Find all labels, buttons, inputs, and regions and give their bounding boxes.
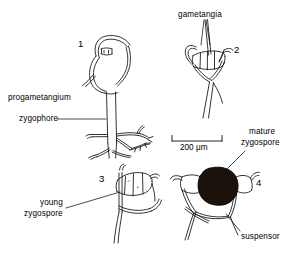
male-symbol: ♂ <box>127 178 131 184</box>
panel-1-drawing <box>83 35 154 159</box>
label-young-zygospore-line1: young <box>40 198 63 209</box>
leader-young-zygospore <box>66 192 120 208</box>
female-symbol: ♀ <box>136 184 140 190</box>
label-suspensor: suspensor <box>241 232 280 243</box>
label-mature-zygospore-line2: zygospore <box>241 138 280 149</box>
panel-3-drawing <box>114 164 162 243</box>
panel-number-2: 2 <box>234 44 239 55</box>
label-mature-zygospore-line1: mature <box>249 127 275 138</box>
panel-4-drawing <box>171 167 260 240</box>
panel-number-3: 3 <box>99 173 104 184</box>
leader-gametangia-left <box>201 20 204 45</box>
figure-canvas: progametangium zygophore gametangia matu… <box>0 0 304 273</box>
panel-2-drawing <box>185 20 233 119</box>
scale-bar-label: 200 μm <box>180 143 207 152</box>
scale-bar <box>172 136 222 142</box>
label-zygophore: zygophore <box>19 114 58 125</box>
panel-number-4: 4 <box>256 177 261 188</box>
label-progametangium: progametangium <box>8 93 71 104</box>
panel-number-1: 1 <box>78 38 83 49</box>
label-gametangia: gametangia <box>178 10 222 21</box>
leader-mature-zygospore <box>223 151 245 173</box>
leader-suspensor <box>226 214 240 231</box>
label-young-zygospore-line2: zygospore <box>24 209 63 220</box>
